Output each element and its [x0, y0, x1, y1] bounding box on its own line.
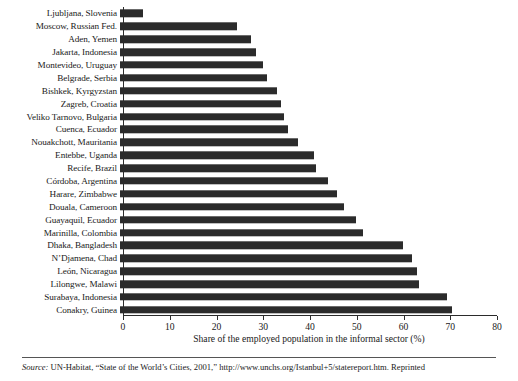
bar-category-label: Zagreb, Croatia: [0, 99, 120, 109]
figure-container: Ljubljana, SloveniaMoscow, Russian Fed.A…: [0, 0, 518, 381]
x-tick-mark: [217, 316, 218, 320]
bar: [120, 48, 256, 55]
x-axis-title: Share of the employed population in the …: [0, 333, 518, 344]
bar-track: [120, 187, 518, 200]
x-tick-label: 40: [290, 321, 330, 332]
bar: [120, 293, 447, 300]
bar-track: [120, 175, 518, 188]
bar-row: Córdoba, Argentina: [0, 175, 518, 188]
x-tick-mark: [123, 316, 124, 320]
bar: [120, 87, 277, 94]
bar-category-label: Montevideo, Uruguay: [0, 60, 120, 70]
bar-row: Dhaka, Bangladesh: [0, 239, 518, 252]
bar-track: [120, 239, 518, 252]
x-tick-mark: [263, 316, 264, 320]
bar-row: Recife, Brazil: [0, 162, 518, 175]
bar-category-label: Cuenca, Ecuador: [0, 124, 120, 134]
bar-category-label: Douala, Cameroon: [0, 202, 120, 212]
x-tick-mark: [450, 316, 451, 320]
x-tick-label: 80: [477, 321, 517, 332]
bar-category-label: N’Djamena, Chad: [0, 253, 120, 263]
x-tick-mark: [497, 316, 498, 320]
x-tick-mark: [357, 316, 358, 320]
bar: [120, 203, 344, 210]
bar: [120, 74, 267, 81]
bar-track: [120, 136, 518, 149]
source-divider: [22, 357, 496, 358]
bar: [120, 61, 263, 68]
bar-track: [120, 213, 518, 226]
bar-row: Zagreb, Croatia: [0, 97, 518, 110]
bar-track: [120, 20, 518, 33]
bar-category-label: Harare, Zimbabwe: [0, 189, 120, 199]
bar-chart: Ljubljana, SloveniaMoscow, Russian Fed.A…: [0, 0, 518, 345]
bar-row: Belgrade, Serbia: [0, 71, 518, 84]
bar: [120, 139, 298, 146]
bar-category-label: Surabaya, Indonesia: [0, 292, 120, 302]
bar: [120, 280, 419, 287]
bar: [120, 306, 452, 313]
bar-track: [120, 278, 518, 291]
bar-row: Nouakchott, Mauritania: [0, 136, 518, 149]
bar-track: [120, 33, 518, 46]
bar-row: Moscow, Russian Fed.: [0, 20, 518, 33]
bar-track: [120, 123, 518, 136]
bar-rows: Ljubljana, SloveniaMoscow, Russian Fed.A…: [0, 7, 518, 316]
bar-row: Veliko Tarnovo, Bulgaria: [0, 110, 518, 123]
bar-row: Douala, Cameroon: [0, 200, 518, 213]
bar-track: [120, 59, 518, 72]
bar-track: [120, 200, 518, 213]
bar-row: León, Nicaragua: [0, 265, 518, 278]
source-note: Source: UN-Habitat, “State of the World’…: [22, 362, 506, 373]
x-tick-label: 30: [243, 321, 283, 332]
x-tick-label: 10: [150, 321, 190, 332]
bar-category-label: Ljubljana, Slovenia: [0, 8, 120, 18]
x-tick-mark: [310, 316, 311, 320]
bar-row: Jakarta, Indonesia: [0, 46, 518, 59]
bar-category-label: Veliko Tarnovo, Bulgaria: [0, 112, 120, 122]
bar-category-label: Conakry, Guinea: [0, 305, 120, 315]
bar: [120, 36, 251, 43]
bar-track: [120, 7, 518, 20]
bar-category-label: Nouakchott, Mauritania: [0, 137, 120, 147]
bar-row: Bishkek, Kyrgyzstan: [0, 84, 518, 97]
source-text: UN-Habitat, “State of the World’s Cities…: [51, 362, 425, 372]
source-label: Source:: [22, 362, 48, 372]
bar: [120, 100, 281, 107]
x-tick-label: 20: [197, 321, 237, 332]
x-tick-label: 60: [384, 321, 424, 332]
bar-track: [120, 97, 518, 110]
bar-row: Guayaquil, Ecuador: [0, 213, 518, 226]
bar-row: Lilongwe, Malawi: [0, 278, 518, 291]
bar: [120, 216, 356, 223]
bar-category-label: León, Nicaragua: [0, 266, 120, 276]
x-tick-mark: [404, 316, 405, 320]
bar: [120, 10, 143, 17]
bar-row: Harare, Zimbabwe: [0, 187, 518, 200]
bar-row: Surabaya, Indonesia: [0, 291, 518, 304]
bar-track: [120, 252, 518, 265]
bar-category-label: Recife, Brazil: [0, 163, 120, 173]
bar-track: [120, 291, 518, 304]
bar: [120, 268, 417, 275]
bar-row: Aden, Yemen: [0, 33, 518, 46]
bar-category-label: Bishkek, Kyrgyzstan: [0, 86, 120, 96]
bar-category-label: Entebbe, Uganda: [0, 150, 120, 160]
bar-row: Ljubljana, Slovenia: [0, 7, 518, 20]
bar-category-label: Aden, Yemen: [0, 34, 120, 44]
bar-track: [120, 162, 518, 175]
bar: [120, 23, 237, 30]
bar-track: [120, 265, 518, 278]
bar: [120, 113, 284, 120]
bar-category-label: Belgrade, Serbia: [0, 73, 120, 83]
bar: [120, 164, 316, 171]
bar: [120, 152, 314, 159]
bar-track: [120, 226, 518, 239]
bar-row: Entebbe, Uganda: [0, 149, 518, 162]
bar-row: Marinilla, Colombia: [0, 226, 518, 239]
bar-row: Montevideo, Uruguay: [0, 59, 518, 72]
bar: [120, 242, 403, 249]
x-tick-mark: [170, 316, 171, 320]
bar: [120, 177, 328, 184]
bar: [120, 255, 412, 262]
